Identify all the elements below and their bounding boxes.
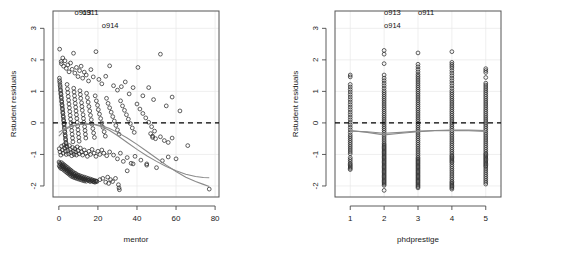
x-axis: 12345 bbox=[348, 206, 489, 223]
y-tick-label: 2 bbox=[312, 57, 321, 62]
point-label-913: o913 bbox=[384, 8, 401, 17]
y-axis-title: Rstudent residuals bbox=[291, 71, 300, 137]
y-tick-label: 3 bbox=[29, 26, 38, 31]
panel-phdprestige: o913o911o91412345-2-10123phdprestigeRstu… bbox=[282, 0, 564, 262]
y-tick-label: -1 bbox=[30, 150, 39, 158]
x-tick-label: 4 bbox=[450, 214, 455, 223]
plot-right: o913o911o91412345-2-10123phdprestigeRstu… bbox=[282, 0, 564, 262]
x-axis-title: mentor bbox=[124, 235, 149, 244]
gridlines bbox=[53, 11, 219, 197]
point-label-914: o914 bbox=[384, 21, 401, 30]
gridlines bbox=[335, 11, 501, 197]
x-tick-label: 40 bbox=[133, 214, 142, 223]
x-axis: 020406080 bbox=[57, 206, 220, 223]
residual-plots-figure: o913o911o914020406080-2-10123mentorRstud… bbox=[0, 0, 564, 262]
y-axis-title: Rstudent residuals bbox=[9, 71, 18, 137]
point-label-914: o914 bbox=[102, 21, 119, 30]
x-tick-label: 5 bbox=[484, 214, 489, 223]
point-label-911: o911 bbox=[418, 8, 434, 17]
x-tick-label: 0 bbox=[57, 214, 62, 223]
y-axis: -2-10123 bbox=[29, 26, 44, 190]
y-tick-label: 1 bbox=[311, 89, 320, 94]
point-label-911: o911 bbox=[82, 8, 98, 17]
x-tick-label: 60 bbox=[172, 214, 181, 223]
y-tick-label: -1 bbox=[312, 150, 321, 158]
x-tick-label: 80 bbox=[211, 214, 220, 223]
x-tick-label: 20 bbox=[93, 214, 102, 223]
y-tick-label: 2 bbox=[30, 57, 39, 62]
smoother-loess-spread bbox=[59, 124, 209, 178]
plot-border bbox=[53, 11, 219, 197]
y-tick-label: 3 bbox=[311, 26, 320, 31]
x-axis-title: phdprestige bbox=[397, 235, 439, 244]
plot-left: o913o911o914020406080-2-10123mentorRstud… bbox=[0, 0, 282, 262]
x-tick-label: 2 bbox=[382, 214, 387, 223]
y-tick-label: 1 bbox=[29, 89, 38, 94]
x-tick-label: 1 bbox=[348, 214, 353, 223]
y-tick-label: -2 bbox=[311, 182, 320, 190]
data-points bbox=[57, 47, 211, 191]
y-tick-label: -2 bbox=[29, 182, 38, 190]
y-axis: -2-10123 bbox=[311, 26, 326, 190]
x-tick-label: 3 bbox=[416, 214, 421, 223]
panel-mentor: o913o911o914020406080-2-10123mentorRstud… bbox=[0, 0, 282, 262]
y-tick-label: 0 bbox=[311, 120, 320, 125]
y-tick-label: 0 bbox=[29, 120, 38, 125]
